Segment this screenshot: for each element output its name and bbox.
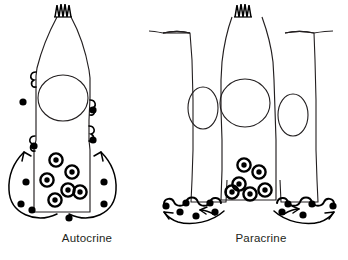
paracrine-bound-ligand [329, 202, 336, 209]
autocrine-ligand-dot [17, 200, 24, 207]
vesicle [243, 187, 256, 200]
vesicle [65, 165, 78, 178]
autocrine-receptor-left-upper [31, 72, 36, 87]
paracrine-nucleus-right [278, 94, 308, 136]
paracrine-bound-ligand [284, 200, 291, 207]
paracrine-bound-ligand [182, 199, 189, 206]
autocrine-vesicle-cluster [40, 153, 86, 206]
caption-paracrine: Paracrine [174, 232, 348, 244]
paracrine-cell-left-membrane [163, 32, 227, 203]
panel-autocrine [9, 4, 116, 222]
autocrine-ligand-dot [22, 178, 29, 185]
autocrine-cilia-icon [55, 4, 71, 17]
paracrine-cell-center-membrane [221, 17, 276, 200]
autocrine-arrowhead-left [22, 152, 31, 161]
paracrine-cell-right-membrane [280, 32, 318, 203]
vesicle [40, 173, 53, 186]
vesicle [237, 158, 250, 171]
autocrine-arrowhead-right [94, 152, 103, 161]
paracrine-apical-edge-right [285, 32, 314, 34]
figure-canvas: Autocrine Paracrine [0, 0, 348, 260]
paracrine-bound-ligand [308, 200, 315, 207]
paracrine-ligand-dot [299, 211, 306, 218]
autocrine-ligand-dot [100, 178, 107, 185]
cell-signaling-diagram [0, 0, 348, 260]
autocrine-bound-ligand [89, 106, 96, 113]
autocrine-bound-ligand [30, 142, 37, 149]
autocrine-nucleus [38, 75, 88, 121]
paracrine-cilia-icon [235, 4, 251, 17]
paracrine-apical-extension-left [149, 31, 163, 33]
vesicle [49, 153, 62, 166]
autocrine-ligand-dot [28, 206, 35, 213]
paracrine-apical-extension-right [314, 31, 333, 33]
autocrine-ligand-dot [19, 98, 26, 105]
paracrine-bound-ligand [162, 202, 169, 209]
paracrine-ligand-dot [192, 212, 199, 219]
paracrine-nucleus-center [220, 79, 270, 127]
paracrine-arrowhead-right-outward [325, 212, 334, 219]
autocrine-bound-ligand [89, 136, 96, 143]
caption-autocrine: Autocrine [0, 232, 174, 244]
autocrine-ligand-dot [100, 200, 107, 207]
vesicle [48, 193, 61, 206]
vesicle [252, 165, 265, 178]
autocrine-cell-membrane [34, 17, 90, 212]
vesicle [258, 183, 271, 196]
paracrine-bound-ligand [206, 199, 213, 206]
paracrine-ligand-dot [176, 208, 183, 215]
paracrine-vesicle-cluster [225, 158, 271, 200]
autocrine-arrow-right [69, 152, 116, 218]
panel-paracrine [149, 4, 337, 224]
paracrine-arrowhead-left-outward [164, 212, 173, 219]
